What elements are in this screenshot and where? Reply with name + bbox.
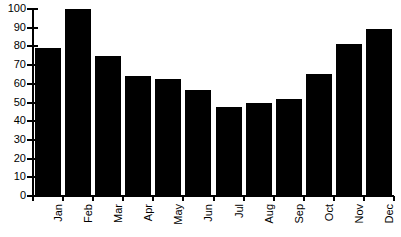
y-axis-tick-label: 80 xyxy=(0,40,26,51)
y-axis-tick-label: 0 xyxy=(0,190,26,201)
x-axis-tick-label: Oct xyxy=(324,204,335,221)
x-axis-tick xyxy=(303,196,305,201)
x-axis-tick xyxy=(92,196,94,201)
y-axis-tick-label-text: 30 xyxy=(0,134,26,145)
y-axis-tick-label: 70 xyxy=(0,59,26,70)
y-axis-tick-label: 20 xyxy=(0,153,26,164)
y-axis-tick-label-text: 70 xyxy=(0,59,26,70)
bar-jul xyxy=(216,107,242,196)
x-axis-tick-label: Sep xyxy=(294,204,305,224)
y-axis-tick xyxy=(27,8,38,10)
x-axis-tick-label: Apr xyxy=(143,204,154,221)
y-axis-tick-label: 100 xyxy=(0,3,26,14)
bar-apr xyxy=(125,76,151,196)
y-axis-tick-label-text: 100 xyxy=(0,3,26,14)
x-axis-tick-label: Jul xyxy=(234,204,245,218)
y-axis-tick-label-text: 50 xyxy=(0,97,26,108)
x-axis-tick-label: Nov xyxy=(354,204,365,224)
x-axis-tick xyxy=(32,196,34,201)
y-axis-tick xyxy=(27,27,38,29)
x-axis-tick-label: Jun xyxy=(203,204,214,222)
bar-jan xyxy=(35,48,61,196)
y-axis-tick-label-text: 80 xyxy=(0,40,26,51)
x-axis-tick-label: Aug xyxy=(264,204,275,224)
x-axis-tick xyxy=(363,196,365,201)
y-axis-tick-label-text: 20 xyxy=(0,153,26,164)
bar-may xyxy=(155,79,181,196)
bar-mar xyxy=(95,56,121,196)
y-axis-tick xyxy=(27,45,38,47)
bar-feb xyxy=(65,9,91,196)
x-axis-tick-label: Dec xyxy=(384,204,395,224)
y-axis-tick-label: 50 xyxy=(0,97,26,108)
x-axis-tick xyxy=(393,196,395,201)
bar-sep xyxy=(276,99,302,196)
y-axis-tick-label-text: 60 xyxy=(0,78,26,89)
y-axis-tick-label-text: 40 xyxy=(0,115,26,126)
bar-dec xyxy=(366,29,392,196)
y-axis-tick-label: 60 xyxy=(0,78,26,89)
x-axis-tick-label: Mar xyxy=(113,204,124,223)
y-axis-tick-label-text: 10 xyxy=(0,171,26,182)
x-axis-tick xyxy=(182,196,184,201)
y-axis-tick-label: 10 xyxy=(0,171,26,182)
x-axis-tick xyxy=(122,196,124,201)
x-axis-tick xyxy=(213,196,215,201)
bar-jun xyxy=(185,90,211,196)
y-axis-tick-label-text: 90 xyxy=(0,22,26,33)
bar-oct xyxy=(306,74,332,196)
y-axis-tick-label: 30 xyxy=(0,134,26,145)
x-axis-tick-label: Jan xyxy=(53,204,64,222)
bar-aug xyxy=(246,103,272,196)
x-axis-tick-label: May xyxy=(173,204,184,225)
x-axis-tick xyxy=(333,196,335,201)
bar-chart: 0102030405060708090100 JanFebMarAprMayJu… xyxy=(0,0,401,237)
y-axis-tick-label-text: 0 xyxy=(0,190,26,201)
x-axis-tick xyxy=(243,196,245,201)
bar-nov xyxy=(336,44,362,196)
x-axis-tick xyxy=(273,196,275,201)
x-axis-tick-label: Feb xyxy=(83,204,94,223)
x-axis-tick xyxy=(152,196,154,201)
y-axis-tick-label: 90 xyxy=(0,22,26,33)
x-axis-tick xyxy=(62,196,64,201)
y-axis-tick-label: 40 xyxy=(0,115,26,126)
